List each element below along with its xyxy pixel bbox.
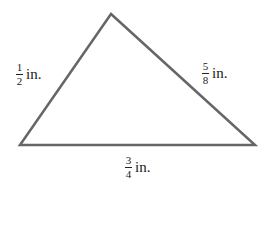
left-side-label: 1 2 in. <box>16 62 41 87</box>
denominator: 4 <box>126 169 132 180</box>
numerator: 5 <box>203 61 209 72</box>
numerator: 3 <box>126 155 132 166</box>
right-side-label: 5 8 in. <box>202 61 227 86</box>
numerator: 1 <box>17 62 23 73</box>
unit: in. <box>26 66 41 83</box>
unit: in. <box>135 159 150 176</box>
denominator: 2 <box>17 76 23 87</box>
unit: in. <box>212 65 227 82</box>
right-side-fraction: 5 8 <box>202 61 209 86</box>
left-side-fraction: 1 2 <box>16 62 23 87</box>
bottom-side-label: 3 4 in. <box>125 155 150 180</box>
denominator: 8 <box>203 75 209 86</box>
bottom-side-fraction: 3 4 <box>125 155 132 180</box>
